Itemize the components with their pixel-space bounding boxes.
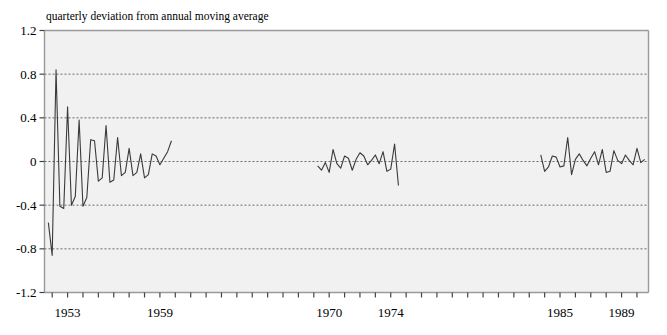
x-tick-label: 1989 <box>609 305 635 320</box>
y-tick-label: -0.4 <box>16 198 37 213</box>
y-tick-label: -1.2 <box>16 285 37 300</box>
quarterly-deviation-line-chart: -1.2-0.8-0.400.40.81.2 19531959197019741… <box>0 0 667 335</box>
chart-title: quarterly deviation from annual moving a… <box>46 10 269 23</box>
x-tick-label: 1985 <box>547 305 573 320</box>
y-tick-label: 0 <box>30 154 37 169</box>
y-tick-label: 1.2 <box>20 23 36 38</box>
x-tick-label: 1974 <box>378 305 405 320</box>
x-tick-label: 1953 <box>55 305 81 320</box>
y-tick-label: -0.8 <box>16 241 37 256</box>
y-tick-label: 0.4 <box>20 110 37 125</box>
x-tick-label: 1959 <box>147 305 173 320</box>
chart-figure: -1.2-0.8-0.400.40.81.2 19531959197019741… <box>0 0 667 335</box>
y-tick-label: 0.8 <box>20 67 36 82</box>
x-tick-label: 1970 <box>316 305 342 320</box>
